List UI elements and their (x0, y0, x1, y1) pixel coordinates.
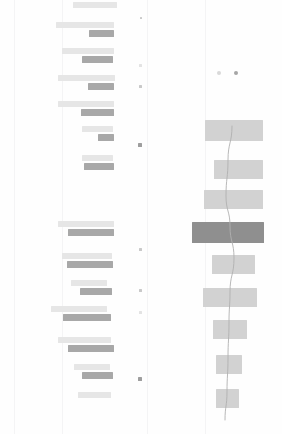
right-bar[interactable] (205, 120, 263, 141)
bar-value-row[interactable] (80, 288, 112, 295)
group-lower (0, 0, 134, 434)
bar-label-row[interactable] (58, 221, 114, 227)
bar-value-row[interactable] (67, 261, 113, 268)
right-bar[interactable] (204, 190, 263, 209)
value-tick-mark (140, 17, 142, 19)
value-tick-mark (139, 248, 142, 251)
right-bar[interactable] (216, 355, 242, 374)
right-bar[interactable] (214, 160, 263, 179)
left-bar-chart-panel (0, 0, 134, 434)
right-bar[interactable] (216, 389, 239, 408)
legend-dot-series-b[interactable] (234, 71, 238, 75)
bar-label-row[interactable] (58, 337, 111, 343)
right-bar[interactable] (212, 255, 255, 274)
bar-value-row[interactable] (68, 345, 114, 352)
right-chart-panel (154, 0, 282, 434)
bar-value-row[interactable] (82, 372, 113, 379)
legend-dot-series-a[interactable] (217, 71, 221, 75)
bar-label-row[interactable] (74, 364, 110, 370)
bar-label-row[interactable] (78, 392, 111, 398)
screenshot-root (0, 0, 282, 434)
bar-label-row[interactable] (71, 280, 107, 286)
right-bar[interactable] (213, 320, 247, 339)
right-bar-highlighted[interactable] (192, 222, 264, 243)
value-tick-mark (139, 311, 142, 314)
value-tick-mark (138, 143, 142, 147)
value-tick-mark (139, 85, 142, 88)
value-tick-column (132, 0, 154, 434)
value-tick-mark (139, 64, 142, 67)
value-tick-mark (139, 289, 142, 292)
bar-value-row[interactable] (63, 314, 111, 321)
right-bar[interactable] (203, 288, 257, 307)
bar-value-row[interactable] (68, 229, 114, 236)
bar-label-row[interactable] (62, 253, 112, 259)
value-tick-mark (138, 377, 142, 381)
bar-label-row[interactable] (51, 306, 107, 312)
